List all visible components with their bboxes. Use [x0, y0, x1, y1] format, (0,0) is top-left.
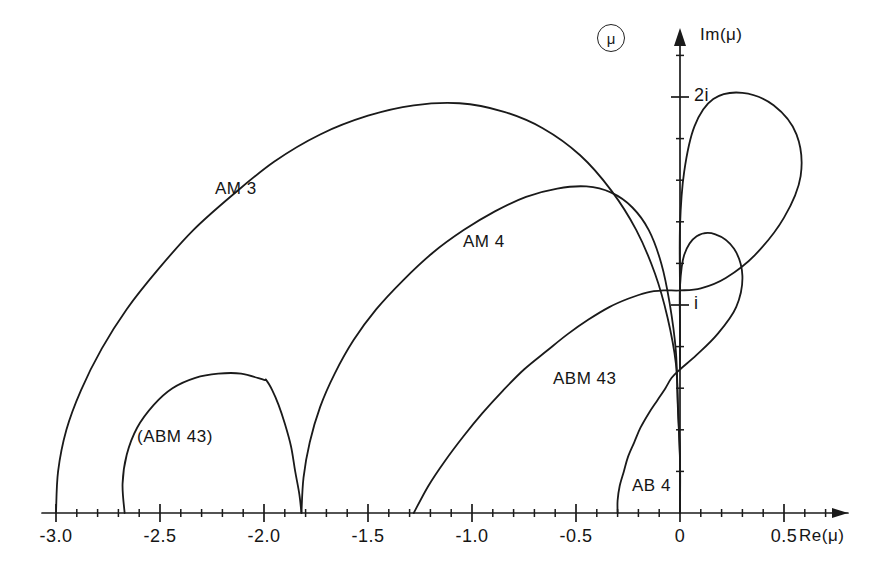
- figure-canvas: μ Im(μ) Re(μ) -3.0-2.5-2.0-1.5-1.0-0.500…: [0, 0, 889, 575]
- curves-group: [56, 93, 802, 513]
- curve-label: (ABM 43): [137, 427, 213, 447]
- curve-label: ABM 43: [553, 369, 616, 389]
- x-tick-label: -2.0: [242, 526, 286, 547]
- x-axis-arrowhead: [832, 508, 848, 518]
- y-axis-label: Im(μ): [700, 25, 743, 45]
- curve-label: AM 3: [215, 179, 257, 199]
- curve-am-3: [56, 103, 680, 513]
- curve-label: AM 4: [463, 232, 505, 252]
- x-tick-label: -2.5: [138, 526, 182, 547]
- mu-badge: μ: [597, 24, 625, 52]
- y-axis-arrowhead: [674, 28, 686, 46]
- x-tick-label: -1.0: [450, 526, 494, 547]
- y-tick-label: 2i: [694, 85, 709, 106]
- mu-badge-label: μ: [607, 31, 616, 46]
- y-tick-label: i: [694, 293, 699, 314]
- x-tick-label: -1.5: [346, 526, 390, 547]
- plot-svg: [0, 0, 889, 575]
- curve-label: AB 4: [632, 476, 671, 496]
- x-tick-label: 0: [658, 526, 702, 547]
- x-tick-label: 0.5: [762, 526, 806, 547]
- x-tick-label: -3.0: [34, 526, 78, 547]
- curve-abm-43: [414, 93, 802, 513]
- x-tick-label: -0.5: [554, 526, 598, 547]
